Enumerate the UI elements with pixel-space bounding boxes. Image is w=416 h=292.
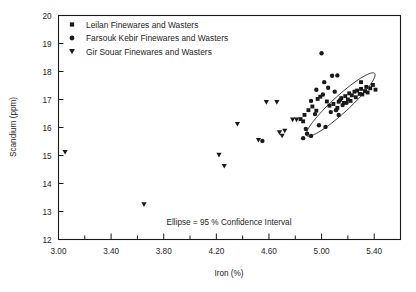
- data-point-square: [354, 95, 358, 99]
- y-tick-label: 13: [42, 208, 52, 217]
- data-point-circle: [321, 92, 325, 96]
- data-point-circle: [344, 101, 348, 105]
- legend-marker-circle: [70, 36, 75, 41]
- y-tick-label: 18: [42, 68, 52, 77]
- data-point-square: [364, 85, 368, 89]
- data-point-square: [371, 83, 375, 87]
- data-point-square: [366, 91, 370, 95]
- data-point-circle: [305, 131, 309, 135]
- data-point-square: [350, 93, 354, 97]
- data-point-circle: [314, 88, 318, 92]
- data-point-circle: [323, 125, 327, 129]
- y-tick-label: 14: [42, 180, 52, 189]
- data-point-square: [306, 108, 310, 112]
- data-point-circle: [317, 123, 321, 127]
- data-point-circle: [333, 89, 337, 93]
- x-tick-label: 4.60: [261, 247, 277, 256]
- y-axis-title: Scandium (ppm): [9, 97, 18, 157]
- data-point-square: [310, 105, 314, 109]
- data-point-square: [331, 102, 335, 106]
- data-point-circle: [260, 139, 264, 143]
- data-point-circle: [340, 103, 344, 107]
- legend-label: Gir Souar Finewares and Wasters: [86, 47, 212, 57]
- data-point-circle: [319, 51, 323, 55]
- y-tick-label: 16: [42, 124, 52, 133]
- legend-label: Farsouk Kebir Finewares and Wasters: [86, 33, 228, 43]
- data-point-square: [355, 89, 359, 93]
- y-tick-label: 15: [42, 152, 52, 161]
- x-tick-label: 5.00: [314, 247, 330, 256]
- data-point-square: [359, 80, 363, 84]
- data-point-circle: [309, 99, 313, 103]
- legend-marker-square: [70, 22, 74, 26]
- data-point-square: [359, 87, 363, 91]
- data-point-circle: [338, 98, 342, 102]
- data-point-square: [301, 119, 305, 123]
- data-point-circle: [304, 127, 308, 131]
- data-point-square: [349, 99, 353, 103]
- scatter-plot-figure: 121314151617181920 3.003.403.804.204.605…: [0, 0, 416, 292]
- data-point-square: [360, 93, 364, 97]
- data-point-square: [374, 88, 378, 92]
- data-point-circle: [301, 136, 305, 140]
- ellipse-annotation: Ellipse = 95 % Confidence Interval: [167, 218, 292, 227]
- data-point-circle: [313, 112, 317, 116]
- y-tick-label: 12: [42, 236, 52, 245]
- legend-label: Leilan Finewares and Wasters: [86, 20, 198, 30]
- y-tick-label: 20: [42, 12, 52, 21]
- data-point-square: [343, 94, 347, 98]
- data-point-square: [368, 86, 372, 90]
- x-tick-label: 3.00: [51, 247, 67, 256]
- x-tick-label: 5.40: [366, 247, 382, 256]
- data-point-circle: [322, 80, 326, 84]
- x-tick-label: 4.20: [208, 247, 224, 256]
- data-point-square: [303, 113, 307, 117]
- data-point-circle: [309, 134, 313, 138]
- x-tick-label: 3.40: [103, 247, 119, 256]
- data-point-circle: [335, 73, 339, 77]
- x-tick-label: 3.80: [156, 247, 172, 256]
- x-axis-title: Iron (%): [214, 269, 243, 278]
- chart-svg: 121314151617181920 3.003.403.804.204.605…: [0, 0, 416, 292]
- y-tick-label: 17: [42, 96, 52, 105]
- data-point-circle: [326, 86, 330, 90]
- data-point-circle: [334, 108, 338, 112]
- data-point-square: [328, 104, 332, 108]
- y-tick-label: 19: [42, 40, 52, 49]
- data-point-circle: [330, 74, 334, 78]
- data-point-square: [325, 100, 329, 104]
- data-point-circle: [329, 110, 333, 114]
- data-point-circle: [336, 113, 340, 117]
